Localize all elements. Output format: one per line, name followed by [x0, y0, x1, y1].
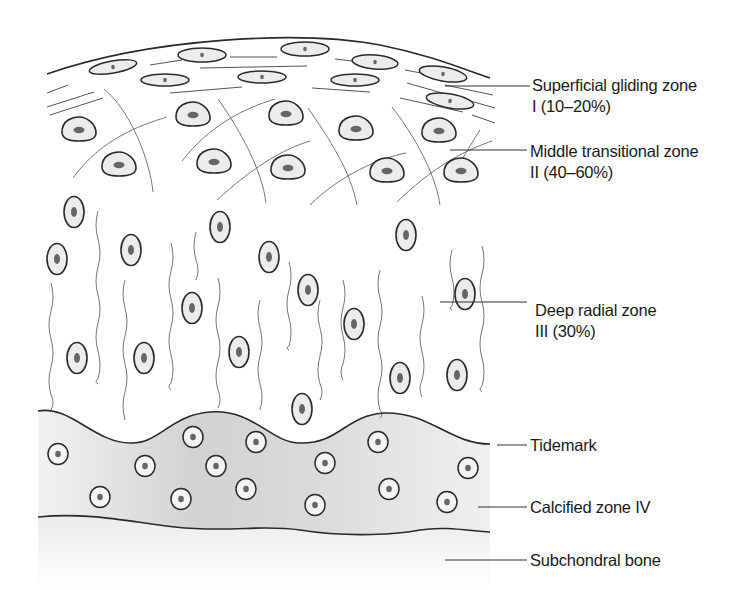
- label-tidemark: Tidemark: [530, 435, 597, 456]
- chondrocyte-columnar: [121, 235, 141, 266]
- nucleus: [386, 486, 392, 492]
- nucleus: [55, 451, 61, 457]
- chondrocyte-columnar: [298, 275, 318, 306]
- chondrocyte-rounded: [444, 158, 478, 182]
- nucleus: [260, 75, 264, 79]
- chondrocyte-columnar: [182, 293, 202, 324]
- chondrocyte-columnar: [390, 363, 410, 394]
- chondrocyte-calcified: [368, 432, 388, 453]
- nucleus: [266, 252, 272, 262]
- radial-fiber: [480, 246, 484, 392]
- nucleus: [351, 126, 362, 133]
- radial-fiber: [318, 300, 322, 400]
- label-deep-zone: Deep radial zone III (30%): [535, 300, 657, 342]
- chondrocyte-flat: [238, 71, 286, 83]
- chondrocyte-flat: [425, 90, 475, 112]
- chondrocyte-rounded: [102, 152, 136, 176]
- nucleus: [236, 347, 242, 357]
- chondrocyte-columnar: [455, 279, 475, 310]
- chondrocyte-columnar: [64, 197, 84, 228]
- nucleus: [283, 165, 294, 172]
- chondrocyte-columnar: [447, 360, 467, 391]
- nucleus: [217, 222, 223, 232]
- chondrocyte-columnar: [134, 343, 154, 374]
- nucleus: [128, 245, 134, 255]
- nucleus: [397, 373, 403, 383]
- nucleus: [456, 168, 467, 175]
- label-calcified-name: Calcified zone IV: [530, 497, 650, 518]
- radial-fiber: [123, 280, 127, 420]
- chondrocyte-calcified: [315, 453, 335, 474]
- chondrocyte-columnar: [210, 212, 230, 243]
- chondrocyte-flat: [331, 74, 379, 86]
- nucleus: [281, 111, 292, 118]
- nucleus: [189, 303, 195, 313]
- radial-fiber: [450, 250, 454, 310]
- chondrocyte-rounded: [271, 155, 305, 179]
- chondrocyte-flat: [141, 74, 189, 86]
- nucleus: [303, 47, 307, 51]
- radial-fiber: [258, 300, 262, 410]
- chondrocyte-calcified: [305, 495, 325, 516]
- nucleus: [200, 53, 204, 57]
- chondrocyte-columnar: [259, 242, 279, 273]
- chondrocyte-calcified: [171, 489, 191, 510]
- radial-fiber: [169, 243, 173, 390]
- chondrocyte-calcified: [437, 492, 457, 513]
- label-subchondral-bone: Subchondral bone: [530, 550, 661, 571]
- nucleus: [213, 463, 219, 469]
- nucleus: [178, 496, 184, 502]
- nucleus: [299, 404, 305, 414]
- nucleus: [434, 128, 445, 135]
- nucleus: [188, 112, 199, 119]
- nucleus: [71, 207, 77, 217]
- chondrocyte-columnar: [292, 394, 312, 425]
- chondrocyte-calcified: [379, 479, 399, 500]
- radial-fiber: [96, 211, 100, 384]
- nucleus: [353, 78, 357, 82]
- nucleus: [454, 370, 460, 380]
- chondrocyte-calcified: [236, 479, 256, 500]
- label-deep-detail: III (30%): [535, 321, 657, 342]
- chondrocyte-columnar: [47, 244, 67, 275]
- chondrocyte-columnar: [396, 220, 416, 251]
- nucleus: [253, 439, 259, 445]
- nucleus: [382, 168, 393, 175]
- label-superficial-detail: I (10–20%): [532, 96, 697, 117]
- nucleus: [54, 254, 60, 264]
- radial-fiber: [287, 262, 291, 350]
- nucleus: [375, 439, 381, 445]
- nucleus: [351, 319, 357, 329]
- chondrocyte-calcified: [135, 456, 155, 477]
- nucleus: [141, 353, 147, 363]
- chondrocyte-calcified: [458, 458, 478, 479]
- radial-fiber: [378, 270, 382, 418]
- chondrocyte-calcified: [90, 487, 110, 508]
- chondrocyte-rounded: [422, 118, 456, 142]
- nucleus: [74, 353, 80, 363]
- radial-fiber: [194, 232, 198, 280]
- chondrocyte-calcified: [246, 432, 266, 453]
- chondrocyte-columnar: [67, 343, 87, 374]
- nucleus: [209, 159, 220, 166]
- chondrocyte-rounded: [62, 117, 96, 141]
- nucleus: [163, 78, 167, 82]
- label-middle-detail: II (40–60%): [530, 162, 699, 183]
- chondrocyte-flat: [418, 63, 468, 85]
- nucleus: [444, 499, 450, 505]
- chondrocyte-calcified: [206, 456, 226, 477]
- nucleus: [322, 460, 328, 466]
- nucleus: [465, 465, 471, 471]
- nucleus: [142, 463, 148, 469]
- nucleus: [243, 486, 249, 492]
- label-calcified-zone: Calcified zone IV: [530, 497, 650, 518]
- label-deep-name: Deep radial zone: [535, 300, 657, 321]
- label-middle-name: Middle transitional zone: [530, 141, 699, 162]
- label-bone-name: Subchondral bone: [530, 550, 661, 571]
- chondrocyte-calcified: [48, 444, 68, 465]
- chondrocyte-rounded: [339, 116, 373, 140]
- nucleus: [190, 434, 196, 440]
- nucleus: [312, 502, 318, 508]
- chondrocyte-flat: [281, 42, 329, 56]
- nucleus: [462, 289, 468, 299]
